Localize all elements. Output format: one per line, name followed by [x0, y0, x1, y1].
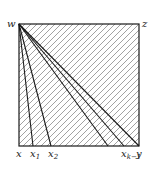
bottom-label-y: y — [135, 148, 142, 159]
bottom-label-x: x — [16, 148, 22, 159]
hatch-line — [29, 24, 151, 146]
hatch-line — [23, 24, 145, 146]
vertex-label-z: z — [141, 18, 148, 29]
diagram-square-fan: w z xx1x2xk−1y — [0, 0, 156, 172]
bottom-labels: xx1x2xk−1y — [16, 148, 142, 161]
bottom-label-x2: x2 — [48, 148, 59, 161]
hatch-line — [0, 24, 19, 146]
hatch-line — [137, 24, 156, 146]
hatch-line — [53, 24, 156, 146]
hatch-line — [131, 24, 156, 146]
hatch-line — [0, 24, 103, 146]
hatch-line — [0, 24, 115, 146]
hatch-line — [125, 24, 156, 146]
fan-line — [19, 24, 108, 146]
vertex-label-w: w — [7, 18, 16, 29]
bottom-label-x1: x1 — [30, 148, 40, 161]
hatch-line — [0, 24, 67, 146]
hatch-line — [89, 24, 156, 146]
